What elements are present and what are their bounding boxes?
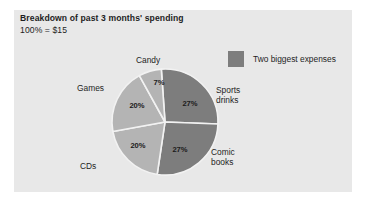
- pie-slice-label-sports-drinks: Sportsdrinks: [216, 85, 240, 105]
- pie-chart: 27%27%20%20%7% SportsdrinksComicbooksCDs…: [0, 0, 366, 203]
- pie-slice-value-games: 20%: [129, 101, 144, 110]
- pie-slice-label-candy: Candy: [136, 55, 161, 65]
- pie-slice-value-comic-books: 27%: [172, 145, 187, 154]
- pie-slice-label-comic-books: Comicbooks: [211, 147, 235, 167]
- pie-slice-value-sports-drinks: 27%: [182, 99, 197, 108]
- pie-slice-label-cds: CDs: [80, 161, 96, 171]
- pie-slice-sports-drinks: [161, 69, 218, 124]
- pie-slice-value-candy: 7%: [154, 78, 165, 87]
- pie-slice-value-cds: 20%: [130, 141, 145, 150]
- pie-slices: [112, 69, 218, 175]
- pie-slice-label-games: Games: [77, 83, 104, 93]
